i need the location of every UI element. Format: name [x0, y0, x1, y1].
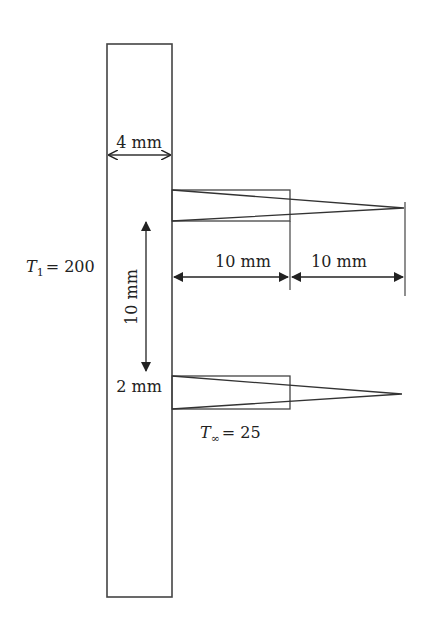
fin-diagram: 4 mm 10 mm 10 mm 10 mm 2 mm T1= 200 T∞= …: [0, 0, 430, 637]
wall-width-label: 4 mm: [116, 133, 162, 152]
tri-fin-extra-length-label: 10 mm: [311, 252, 367, 271]
fin-thickness-label: 2 mm: [116, 377, 162, 396]
lower-tri-fin: [172, 376, 402, 409]
fin-spacing-label: 10 mm: [122, 269, 141, 325]
upper-tri-fin: [172, 190, 404, 221]
rect-fin-length-label: 10 mm: [215, 252, 271, 271]
ambient-temperature-label: T∞= 25: [200, 423, 261, 445]
wall-temperature-label: T1= 200: [26, 257, 95, 279]
